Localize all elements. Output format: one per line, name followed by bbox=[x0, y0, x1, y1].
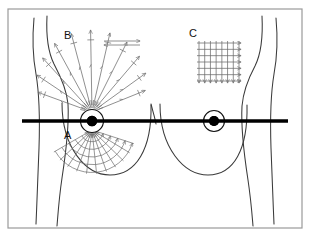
label-c: C bbox=[189, 27, 197, 39]
label-a: A bbox=[64, 129, 72, 141]
label-b: B bbox=[64, 29, 71, 41]
breast-self-exam-diagram: A B C bbox=[0, 0, 310, 237]
right-nipple-top bbox=[209, 116, 219, 126]
diagram-canvas: A B C bbox=[0, 0, 310, 237]
left-nipple-top bbox=[87, 116, 97, 126]
